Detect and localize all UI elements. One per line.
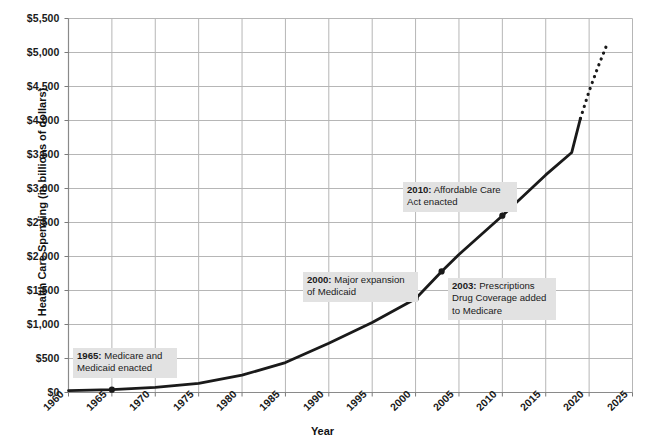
health-care-spending-chart: $0$500$1,000$1,500$2,000$2,500$3,000$3,5… [0, 0, 645, 444]
annotation-line-2: Act enacted [407, 196, 513, 208]
y-axis-tick-label: $4,000 [0, 114, 60, 126]
annotation-year: 1965: [77, 350, 102, 361]
y-axis-tick-label: $2,000 [0, 250, 60, 262]
y-axis-tick-label: $5,000 [0, 46, 60, 58]
data-point-marker [439, 268, 445, 274]
annotation-line-2: of Medicaid [307, 286, 414, 298]
y-axis-tick-label: $3,500 [0, 148, 60, 160]
annotation-line-1: 2000: Major expansion [307, 274, 414, 286]
axis-lines [69, 19, 633, 393]
y-axis-title: Health Care Spending (in billions of dol… [36, 77, 48, 327]
annotation-line-2: Medicaid enacted [77, 362, 173, 374]
y-axis-tick-label: $3,000 [0, 182, 60, 194]
y-axis-tick-label: $2,500 [0, 216, 60, 228]
y-axis-tick-label: $1,000 [0, 318, 60, 330]
data-point-marker [109, 387, 115, 393]
annotation-1965: 1965: Medicare andMedicaid enacted [73, 348, 177, 378]
y-axis-tick-label: $4,500 [0, 80, 60, 92]
annotation-line-2: Drug Coverage added [452, 292, 552, 304]
annotation-2010: 2010: Affordable CareAct enacted [403, 182, 517, 212]
annotation-2003: 2003: PrescriptionsDrug Coverage addedto… [448, 278, 556, 320]
y-axis-tick-label: $5,500 [0, 12, 60, 24]
y-axis-tick-label: $1,500 [0, 284, 60, 296]
annotation-line-1-text: Affordable Care [432, 184, 501, 195]
data-point-marker [499, 213, 505, 219]
annotation-line-3: to Medicare [452, 305, 552, 317]
y-axis-tick-label: $500 [0, 352, 60, 364]
data-series-layer [69, 46, 607, 391]
annotation-year: 2003: [452, 280, 477, 291]
axis-ticks [65, 19, 633, 397]
annotation-line-1-text: Prescriptions [477, 280, 535, 291]
annotation-year: 2000: [307, 274, 332, 285]
x-axis-title: Year [0, 425, 645, 437]
annotation-2000: 2000: Major expansionof Medicaid [303, 272, 418, 302]
annotation-line-1: 1965: Medicare and [77, 350, 173, 362]
annotation-year: 2010: [407, 184, 432, 195]
annotation-line-1: 2003: Prescriptions [452, 280, 552, 292]
annotation-line-1: 2010: Affordable Care [407, 184, 513, 196]
annotation-line-1-text: Medicare and [102, 350, 163, 361]
annotation-line-1-text: Major expansion [332, 274, 405, 285]
gridlines [69, 19, 633, 393]
data-line-projected [580, 46, 606, 119]
